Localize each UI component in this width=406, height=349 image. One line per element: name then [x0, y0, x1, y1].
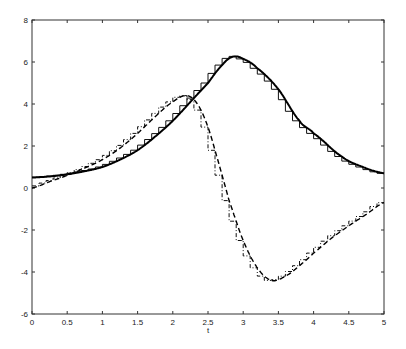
x-tick-label: 3	[241, 318, 246, 327]
line-chart: 00.511.522.533.544.55-6-4-202468 t	[0, 0, 406, 349]
x-tick-label: 2	[171, 318, 176, 327]
x-tick-label: 0	[30, 318, 35, 327]
x-tick-label: 0.5	[62, 318, 74, 327]
dashdot-staircase-curve	[32, 96, 384, 281]
solid-staircase-curve	[32, 56, 384, 177]
x-tick-label: 4.5	[343, 318, 355, 327]
x-tick-label: 4	[311, 318, 316, 327]
x-tick-label: 1	[100, 318, 105, 327]
y-tick-label: 0	[24, 184, 29, 193]
dashed-smooth-curve	[32, 96, 384, 281]
x-tick-label: 5	[382, 318, 387, 327]
x-axis-label: t	[207, 326, 210, 335]
x-tick-label: 1.5	[132, 318, 144, 327]
plot-curves	[32, 56, 384, 280]
y-tick-label: -6	[21, 310, 29, 319]
y-tick-label: -2	[21, 226, 29, 235]
y-tick-label: 8	[24, 16, 29, 25]
y-tick-label: 6	[24, 58, 29, 67]
y-tick-label: 2	[24, 142, 29, 151]
x-tick-label: 3.5	[273, 318, 285, 327]
y-tick-label: -4	[21, 268, 29, 277]
y-tick-label: 4	[24, 100, 29, 109]
